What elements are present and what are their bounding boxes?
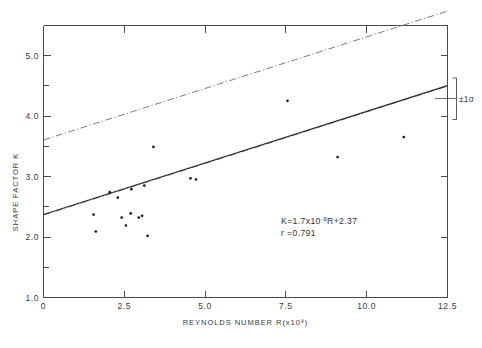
data-point — [141, 214, 144, 217]
x-tick-label-7-5: 7.5 — [279, 301, 293, 311]
y-axis-ticks — [44, 56, 51, 298]
data-point — [94, 230, 97, 233]
data-point — [130, 188, 133, 191]
regression-line — [44, 86, 448, 215]
data-point — [137, 216, 140, 219]
y-axis-tick-labels: 1.0 2.0 3.0 4.0 5.0 — [25, 51, 39, 303]
x-tick-label-12-5: 12.5 — [438, 301, 457, 311]
data-point — [120, 216, 123, 219]
y-tick-label-2-0: 2.0 — [25, 232, 39, 242]
correlation-coefficient: r =0.791 — [281, 228, 316, 238]
regression-equation: K=1.7x10-9R+2.37 — [281, 215, 357, 226]
y-tick-label-3-0: 3.0 — [25, 172, 39, 182]
y-tick-label-5-0: 5.0 — [25, 51, 39, 61]
scatter-plot: 1.0 2.0 3.0 4.0 5.0 0 — [0, 0, 482, 348]
y-tick-label-1-0: 1.0 — [25, 293, 39, 303]
plot-axes — [44, 26, 448, 298]
x-axis-title: REYNOLDS NUMBER R(x10⁸) — [183, 318, 309, 327]
x-tick-label-10-0: 10.0 — [357, 301, 376, 311]
x-tick-label-2-5: 2.5 — [117, 301, 131, 311]
x-axis-ticks — [44, 26, 448, 298]
data-point — [143, 184, 146, 187]
data-point — [125, 224, 128, 227]
data-point — [152, 146, 155, 149]
equation-rhs: R+2.37 — [327, 216, 357, 226]
equation-lhs: K=1.7x10 — [281, 216, 321, 226]
figure-container: 1.0 2.0 3.0 4.0 5.0 0 — [0, 0, 482, 348]
data-point — [108, 191, 111, 194]
data-point — [286, 99, 289, 102]
data-point — [129, 212, 132, 215]
x-axis-tick-labels: 0 2.5 5.0 7.5 10.0 12.5 — [41, 301, 457, 311]
upper-confidence-band — [44, 11, 448, 140]
regression-equation-annotation: K=1.7x10-9R+2.37 r =0.791 — [281, 215, 357, 238]
y-tick-label-4-0: 4.0 — [25, 111, 39, 121]
data-point — [402, 136, 405, 139]
x-tick-label-5-0: 5.0 — [198, 301, 212, 311]
data-point — [195, 178, 198, 181]
y-axis-title: SHAPE FACTOR K — [11, 153, 20, 231]
sigma-bracket-annotation: ±1σ — [435, 78, 474, 120]
data-point — [92, 213, 95, 216]
data-point — [336, 156, 339, 159]
data-point — [189, 177, 192, 180]
data-points-group — [92, 99, 405, 237]
x-tick-label-0: 0 — [41, 301, 46, 311]
data-point — [116, 196, 119, 199]
sigma-label: ±1σ — [459, 95, 474, 104]
data-point — [146, 234, 149, 237]
